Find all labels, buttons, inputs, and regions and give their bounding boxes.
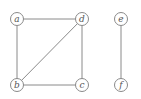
- node-label: d: [79, 14, 85, 24]
- node-f: f: [115, 79, 128, 92]
- node-d: d: [76, 13, 89, 26]
- node-label: b: [14, 80, 20, 90]
- node-b: b: [11, 79, 24, 92]
- node-a: a: [11, 13, 24, 26]
- node-label: c: [79, 80, 84, 90]
- node-label: a: [14, 14, 19, 24]
- edge-b-d: [17, 19, 82, 85]
- nodes-group: abcdef: [11, 13, 128, 92]
- node-c: c: [76, 79, 89, 92]
- graph-diagram: abcdef: [0, 0, 141, 99]
- node-e: e: [115, 13, 128, 26]
- node-label: e: [118, 14, 123, 24]
- edges-group: [17, 19, 121, 85]
